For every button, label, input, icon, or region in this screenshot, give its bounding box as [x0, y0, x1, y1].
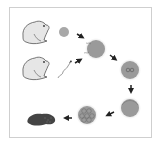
arrow-to-cleavage	[108, 112, 114, 115]
male-frog-icon	[23, 57, 49, 79]
arrow-to-zygote	[110, 55, 115, 59]
embryo-tadpole	[27, 114, 55, 126]
sperm-head	[69, 60, 72, 63]
zygote-cell	[121, 99, 139, 117]
sperm-cell	[58, 63, 70, 78]
female-frog-icon	[23, 21, 49, 43]
diagram-canvas	[0, 0, 160, 146]
arrow-egg-to-fertilization	[77, 34, 82, 37]
arrow-sperm-to-fertilization	[75, 60, 80, 63]
egg-cell	[59, 27, 69, 37]
fertilization-cell	[87, 40, 105, 58]
